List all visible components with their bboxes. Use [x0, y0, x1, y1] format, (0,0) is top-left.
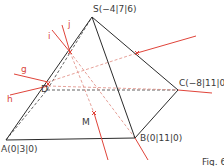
label-A: A(0|3|0)	[1, 144, 37, 154]
label-g: g	[21, 64, 27, 74]
edge-BC	[135, 90, 178, 138]
figure-caption: Fig. 6	[202, 157, 224, 166]
line-i-hidden	[70, 52, 135, 138]
label-h: h	[7, 94, 13, 104]
label-S: S(−4|7|6)	[93, 4, 137, 14]
label-M: M	[82, 117, 90, 127]
line-g	[14, 74, 48, 82]
line-g-hidden	[48, 53, 137, 82]
label-D: D	[41, 84, 48, 94]
line-through-SC	[137, 36, 196, 53]
red-hidden-lines	[48, 52, 178, 138]
point-markers	[46, 50, 139, 115]
label-j: j	[68, 19, 71, 29]
label-B: B(0|11|0)	[140, 133, 182, 143]
label-C: C(−8|11|0)	[179, 78, 224, 88]
line-i	[52, 30, 70, 52]
edge-AB	[6, 138, 135, 140]
line-through-C	[178, 90, 212, 93]
line-j	[62, 25, 70, 52]
label-i: i	[48, 31, 51, 41]
line-through-M	[94, 113, 108, 160]
line-h-hidden	[48, 86, 178, 90]
line-j-hidden	[70, 52, 94, 113]
